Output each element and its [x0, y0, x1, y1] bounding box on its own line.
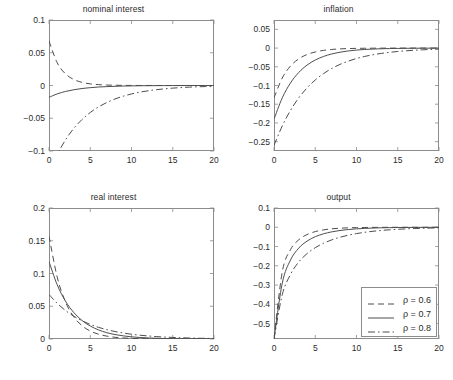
impulse-response-figure: nominal interest 0.10.050−0.05−0.1051015…	[0, 0, 453, 380]
panel-title-nominal-interest: nominal interest	[6, 4, 221, 14]
series-line-dashdot	[274, 49, 439, 145]
y-tick-label: 0.05	[253, 24, 270, 34]
series-line-dashed	[49, 41, 214, 86]
x-tick-label: 15	[393, 343, 402, 353]
y-tick-label: 0.1	[33, 15, 45, 25]
curves-inflation	[274, 20, 439, 151]
curves-real-interest	[49, 208, 214, 339]
legend-label: ρ = 0.6	[403, 295, 431, 305]
y-tick-label: −0.15	[248, 99, 270, 109]
y-tick-label: 0.15	[28, 236, 45, 246]
y-tick-label: 0.1	[258, 203, 270, 213]
x-tick-label: 0	[272, 155, 277, 165]
series-line-dashed	[49, 236, 214, 339]
y-tick-label: 0	[40, 334, 45, 344]
series-line-solid	[274, 48, 439, 119]
x-tick-label: 10	[127, 155, 136, 165]
y-tick-label: −0.05	[248, 62, 270, 72]
x-tick-label: 0	[47, 343, 52, 353]
legend-line-sample-dashed	[368, 295, 394, 305]
panel-real-interest: real interest 0.20.150.10.05005101520	[6, 192, 221, 372]
legend-line-sample-dashdot	[368, 323, 394, 333]
y-tick-label: 0	[265, 43, 270, 53]
y-tick-label: −0.4	[253, 299, 270, 309]
curves-nominal-interest	[49, 20, 214, 151]
x-tick-label: 5	[88, 155, 93, 165]
panel-title-output: output	[231, 192, 446, 202]
legend-item-dashdot: ρ = 0.8	[368, 321, 431, 335]
y-tick-label: −0.05	[23, 113, 45, 123]
legend-label: ρ = 0.8	[403, 323, 431, 333]
x-tick-label: 10	[352, 343, 361, 353]
x-tick-label: 15	[168, 155, 177, 165]
y-tick-label: −0.1	[28, 146, 45, 156]
panel-title-real-interest: real interest	[6, 192, 221, 202]
x-tick-label: 15	[168, 343, 177, 353]
x-tick-label: 0	[47, 155, 52, 165]
panel-output: output 0.10−0.1−0.2−0.3−0.4−0.505101520ρ…	[231, 192, 446, 372]
legend-item-dashed: ρ = 0.6	[368, 293, 431, 307]
x-tick-label: 20	[209, 343, 218, 353]
y-tick-label: 0.1	[33, 269, 45, 279]
x-tick-label: 10	[127, 343, 136, 353]
series-line-dashdot	[49, 294, 214, 338]
y-tick-label: −0.1	[253, 81, 270, 91]
legend-line-sample-solid	[368, 309, 394, 319]
y-tick-label: −0.2	[253, 118, 270, 128]
y-tick-label: −0.1	[253, 242, 270, 252]
x-tick-label: 0	[272, 343, 277, 353]
panel-title-inflation: inflation	[231, 4, 446, 14]
x-tick-label: 20	[434, 155, 443, 165]
y-tick-label: 0	[40, 81, 45, 91]
x-tick-label: 5	[313, 343, 318, 353]
x-tick-label: 20	[209, 155, 218, 165]
legend-label: ρ = 0.7	[403, 309, 431, 319]
legend: ρ = 0.6ρ = 0.7ρ = 0.8	[361, 287, 437, 337]
y-tick-label: 0	[265, 222, 270, 232]
panel-inflation: inflation 0.050−0.05−0.1−0.15−0.2−0.2505…	[231, 4, 446, 184]
x-tick-label: 20	[434, 343, 443, 353]
y-tick-label: −0.3	[253, 280, 270, 290]
y-tick-label: 0.2	[33, 203, 45, 213]
y-tick-label: −0.25	[248, 137, 270, 147]
x-tick-label: 5	[88, 343, 93, 353]
y-tick-label: −0.2	[253, 261, 270, 271]
y-tick-label: 0.05	[28, 48, 45, 58]
x-tick-label: 10	[352, 155, 361, 165]
x-tick-label: 5	[313, 155, 318, 165]
panel-nominal-interest: nominal interest 0.10.050−0.05−0.1051015…	[6, 4, 221, 184]
series-line-solid	[49, 262, 214, 339]
x-tick-label: 15	[393, 155, 402, 165]
y-tick-label: −0.5	[253, 319, 270, 329]
legend-item-solid: ρ = 0.7	[368, 307, 431, 321]
y-tick-label: 0.05	[28, 301, 45, 311]
